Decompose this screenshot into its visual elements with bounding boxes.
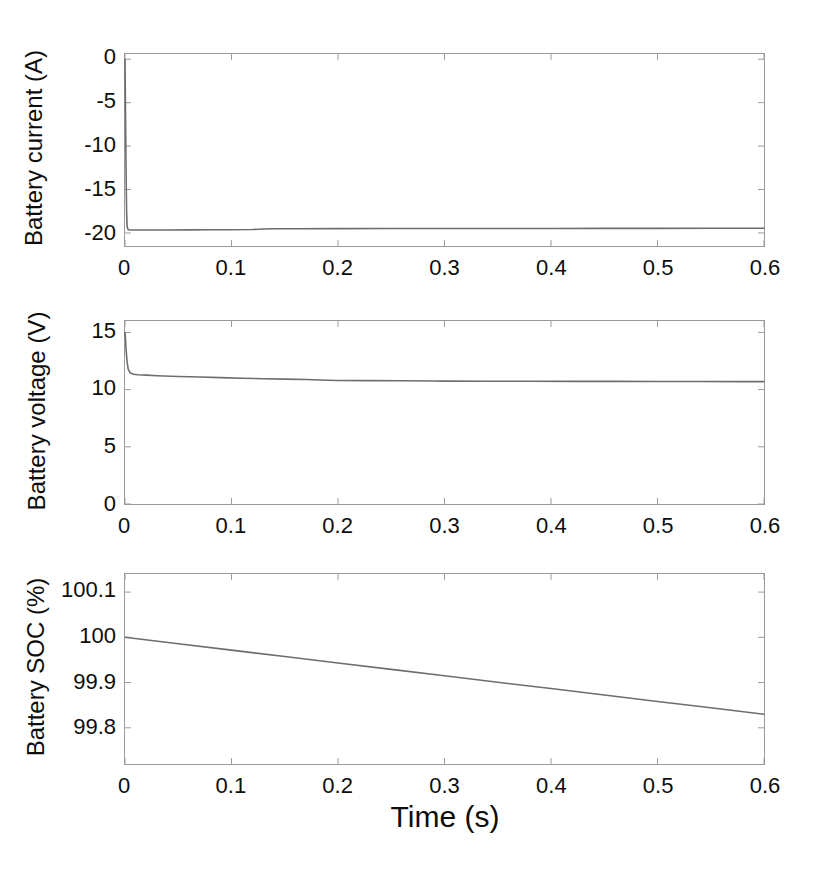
plot-area-battery-soc bbox=[124, 573, 765, 765]
y-tick-label: 10 bbox=[28, 375, 116, 401]
x-tick-label: 0.4 bbox=[511, 255, 591, 281]
plot-svg-battery-current bbox=[125, 54, 764, 246]
x-tick-label: 0 bbox=[84, 513, 164, 539]
x-tick-label: 0.1 bbox=[191, 773, 271, 799]
y-tick-label: 99.9 bbox=[28, 669, 116, 695]
y-tick-label: 100.1 bbox=[28, 577, 116, 603]
x-tick-label: 0.6 bbox=[725, 255, 805, 281]
x-tick-label: 0.3 bbox=[405, 773, 485, 799]
x-tick-label: 0.1 bbox=[191, 513, 271, 539]
x-tick-label: 0.4 bbox=[511, 513, 591, 539]
y-tick-label: -10 bbox=[28, 132, 116, 158]
x-tick-label: 0.6 bbox=[725, 773, 805, 799]
x-tick-label: 0 bbox=[84, 255, 164, 281]
x-tick-label: 0.5 bbox=[618, 513, 698, 539]
plot-svg-battery-soc bbox=[125, 574, 764, 764]
y-tick-label: 100 bbox=[28, 623, 116, 649]
x-tick-label: 0.1 bbox=[191, 255, 271, 281]
x-tick-label: 0.2 bbox=[298, 773, 378, 799]
x-axis-title: Time (s) bbox=[0, 800, 815, 834]
x-tick-label: 0.3 bbox=[405, 513, 485, 539]
plot-area-battery-current bbox=[124, 53, 765, 247]
y-tick-label: 99.8 bbox=[28, 714, 116, 740]
y-tick-label: 15 bbox=[28, 318, 116, 344]
x-tick-label: 0.3 bbox=[405, 255, 485, 281]
y-tick-label: 5 bbox=[28, 433, 116, 459]
y-tick-label: 0 bbox=[28, 44, 116, 70]
x-tick-label: 0.2 bbox=[298, 255, 378, 281]
y-tick-label: -15 bbox=[28, 176, 116, 202]
x-tick-label: 0 bbox=[84, 773, 164, 799]
y-tick-label: -20 bbox=[28, 220, 116, 246]
plot-svg-battery-voltage bbox=[125, 321, 764, 504]
x-tick-label: 0.5 bbox=[618, 255, 698, 281]
x-tick-label: 0.6 bbox=[725, 513, 805, 539]
y-axis-label-battery-soc: Battery SOC (%) bbox=[22, 511, 50, 823]
plot-area-battery-voltage bbox=[124, 320, 765, 505]
x-tick-label: 0.4 bbox=[511, 773, 591, 799]
x-tick-label: 0.2 bbox=[298, 513, 378, 539]
y-tick-label: -5 bbox=[28, 88, 116, 114]
figure-canvas: Battery current (A) 0 -5 -10 -15 -20 0 0… bbox=[0, 0, 815, 872]
x-tick-label: 0.5 bbox=[618, 773, 698, 799]
